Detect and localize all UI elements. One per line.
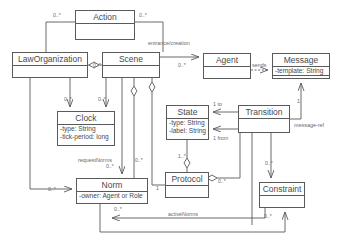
diamond-scene-norm <box>131 86 137 96</box>
multiplicity-norm-scene: 0..* <box>135 157 143 163</box>
class-box-transition[interactable]: Transition <box>238 105 290 133</box>
attribute-clock-tick-period: -tick-period: long <box>60 133 112 141</box>
multiplicity-message-bottom: 1 <box>297 98 300 104</box>
edge-label-from: 1 from <box>213 135 228 141</box>
edge-label-sends: sends <box>252 62 266 68</box>
attribute-message-template: -template: String <box>275 67 327 75</box>
edge-law-action <box>46 22 75 52</box>
multiplicity-norm-left: 0..* <box>48 186 56 192</box>
multiplicity-clock-left: 0..* <box>64 96 72 102</box>
multiplicity-protocol-right: 0..* <box>218 178 226 184</box>
class-box-action[interactable]: Action <box>75 10 135 40</box>
multiplicity-agent-left: 0..* <box>178 62 186 68</box>
class-name-norm: Norm <box>77 179 147 192</box>
diamond-scene-protocol <box>149 82 155 92</box>
attribute-state-type: -type: String <box>169 119 206 127</box>
class-attrs-norm: -owner: Agent or Role <box>77 192 147 200</box>
multiplicity-norm-bottom: 0..* <box>114 206 122 212</box>
class-name-message: Message <box>273 54 329 67</box>
edge-label-entrance-creation: entrance/creation <box>148 40 190 46</box>
multiplicity-state-protocol: 1..* <box>178 153 186 159</box>
class-name-clock: Clock <box>58 112 114 125</box>
class-name-action: Action <box>76 11 134 24</box>
class-name-protocol: Protocol <box>166 173 208 186</box>
multiplicity-action-right: 0..* <box>139 12 147 18</box>
class-box-law-organization[interactable]: LawOrganization <box>12 52 88 78</box>
edge-scene-proto-b <box>152 92 165 185</box>
class-box-message[interactable]: Message -template: String <box>272 53 330 79</box>
multiplicity-constraint-bottom: 0..* <box>264 213 272 219</box>
class-box-agent[interactable]: Agent <box>203 53 251 79</box>
multiplicity-norm-top: 0..* <box>106 163 114 169</box>
class-box-constraint[interactable]: Constraint <box>259 182 305 208</box>
attribute-state-label: -label: String <box>169 127 206 135</box>
class-name-state: State <box>167 106 208 119</box>
multiplicity-scene-left: 0..* <box>93 62 101 68</box>
class-box-norm[interactable]: Norm -owner: Agent or Role <box>76 178 148 204</box>
edge-scene-action <box>135 22 163 52</box>
class-name-law-organization: LawOrganization <box>13 53 87 66</box>
edge-label-to: 1 to <box>213 101 222 107</box>
class-name-transition: Transition <box>239 106 289 119</box>
class-attrs-clock: -type: String -tick-period: long <box>58 125 114 142</box>
edge-label-active-norms: activeNorms <box>168 211 198 217</box>
class-box-state[interactable]: State -type: String -label: String <box>166 105 209 140</box>
uml-diagram-canvas: Action LawOrganization Scene Agent Messa… <box>0 0 341 243</box>
class-name-agent: Agent <box>204 54 250 67</box>
edge-label-message-ref: message-ref <box>294 122 324 128</box>
multiplicity-protocol-left: 1 <box>156 185 159 191</box>
class-name-scene: Scene <box>103 53 159 66</box>
attribute-clock-type: -type: String <box>60 125 112 133</box>
diamond-state-protocol <box>184 158 190 168</box>
class-name-constraint: Constraint <box>260 183 304 196</box>
multiplicity-constraint-top: 0..* <box>265 160 273 166</box>
multiplicity-clock-right: 0..* <box>98 96 106 102</box>
class-box-scene[interactable]: Scene <box>102 52 160 78</box>
class-attrs-state: -type: String -label: String <box>167 119 208 136</box>
class-box-protocol[interactable]: Protocol <box>165 172 209 198</box>
class-box-clock[interactable]: Clock -type: String -tick-period: long <box>57 111 115 146</box>
attribute-norm-owner: -owner: Agent or Role <box>79 192 145 200</box>
class-attrs-message: -template: String <box>273 67 329 76</box>
multiplicity-action-left: 0..* <box>53 12 61 18</box>
